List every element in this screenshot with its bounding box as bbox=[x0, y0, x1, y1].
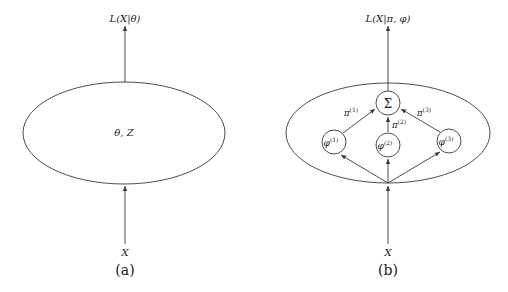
diagram-canvas: θ, Z L(X|θ) X (a) L(X|π, φ) Σ φ(1) φ(2) … bbox=[0, 0, 508, 292]
ellipse-label-a: θ, Z bbox=[114, 127, 134, 138]
caption-a: (a) bbox=[115, 262, 134, 278]
input-label-b: X bbox=[383, 247, 392, 258]
caption-b: (b) bbox=[378, 262, 398, 278]
likelihood-label-b: L(X|π, φ) bbox=[365, 13, 411, 25]
likelihood-label-a: L(X|θ) bbox=[109, 13, 141, 25]
input-label-a: X bbox=[120, 247, 129, 258]
panel-b: L(X|π, φ) Σ φ(1) φ(2) φ(3) π(1) π(2) π(3… bbox=[286, 13, 490, 278]
sum-symbol: Σ bbox=[384, 97, 392, 111]
panel-a: θ, Z L(X|θ) X (a) bbox=[23, 13, 225, 278]
